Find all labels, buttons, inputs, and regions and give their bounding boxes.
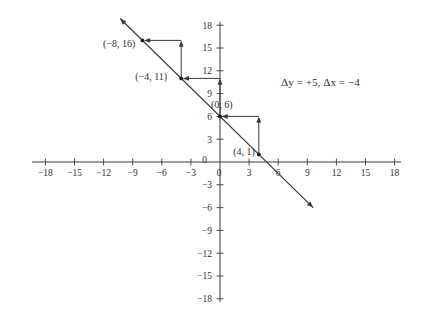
x-tick-label: 15 xyxy=(361,168,371,178)
x-tick-label: 3 xyxy=(247,168,252,178)
point-dot xyxy=(257,153,261,157)
x-tick-label: −12 xyxy=(96,168,111,178)
y-tick-label: −15 xyxy=(197,271,212,281)
point-label: (0, 6) xyxy=(211,99,233,111)
rise-arrowhead-up xyxy=(179,40,184,46)
y-tick-label: 12 xyxy=(203,66,213,76)
coordinate-plane-chart: −18−15−12−9−6−3369121518−18−15−12−9−6−33… xyxy=(0,0,425,328)
y-tick-label: −12 xyxy=(197,249,212,259)
y-tick-label: −18 xyxy=(197,294,212,304)
point-dot xyxy=(218,115,222,119)
point-label: (4, 1) xyxy=(233,146,255,158)
x-tick-label: 18 xyxy=(390,168,400,178)
rise-arrowhead-up xyxy=(218,78,223,84)
y-tick-label: 3 xyxy=(207,135,212,145)
x-tick-label: 12 xyxy=(332,168,342,178)
point-label: (−8, 16) xyxy=(103,38,135,50)
x-tick-label: −9 xyxy=(128,168,138,178)
rise-arrowhead-up xyxy=(256,116,261,122)
x-tick-label: −15 xyxy=(67,168,82,178)
slope-annotation: Δy = +5, Δx = −4 xyxy=(281,76,360,88)
y-tick-label: −6 xyxy=(202,203,212,213)
x-tick-label: −6 xyxy=(157,168,167,178)
y-tick-label: 18 xyxy=(203,21,213,31)
figure: −18−15−12−9−6−3369121518−18−15−12−9−6−33… xyxy=(0,0,425,328)
x-tick-label: −18 xyxy=(38,168,53,178)
plot-line xyxy=(120,19,313,208)
point-dot xyxy=(179,77,183,81)
y-tick-label: 6 xyxy=(207,112,212,122)
point-dot xyxy=(141,39,145,43)
y-tick-label: −9 xyxy=(202,226,212,236)
x-zero-label: 0 xyxy=(217,168,222,178)
y-zero-label: 0 xyxy=(202,155,207,165)
point-label: (−4, 11) xyxy=(135,71,167,83)
x-tick-label: −3 xyxy=(186,168,196,178)
y-tick-label: −3 xyxy=(202,180,212,190)
x-tick-label: 9 xyxy=(305,168,310,178)
y-tick-label: 9 xyxy=(207,89,212,99)
y-tick-label: 15 xyxy=(203,43,213,53)
